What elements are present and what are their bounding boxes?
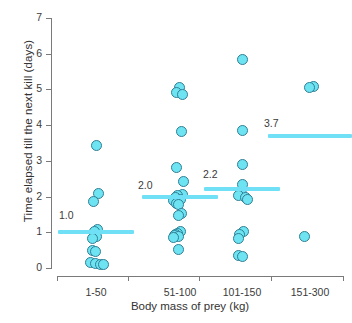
y-axis-tick-label: 3: [26, 155, 42, 166]
x-axis-tick: [199, 276, 200, 281]
y-axis-tick: [46, 197, 51, 198]
data-point: [176, 126, 187, 137]
y-axis-tick: [46, 268, 51, 269]
x-axis-tick: [271, 276, 272, 281]
y-axis-tick: [46, 89, 51, 90]
y-axis-tick-label: 4: [26, 119, 42, 130]
y-axis-line: [51, 18, 52, 269]
mean-line: [58, 230, 134, 234]
data-point: [87, 233, 98, 244]
y-axis-tick-label: 0: [26, 262, 42, 273]
mean-value-label: 1.0: [59, 209, 74, 221]
data-point: [88, 196, 99, 207]
y-axis-tick: [46, 125, 51, 126]
mean-value-label: 2.2: [203, 168, 218, 180]
data-point: [237, 159, 248, 170]
data-point: [242, 194, 253, 205]
y-axis-tick-label: 5: [26, 83, 42, 94]
data-point: [237, 54, 248, 65]
x-axis-tick: [128, 276, 129, 281]
data-point: [299, 231, 310, 242]
x-axis-tick: [343, 276, 344, 281]
data-point: [178, 176, 189, 187]
data-point: [237, 125, 248, 136]
y-axis-tick: [46, 18, 51, 19]
data-point: [173, 244, 184, 255]
data-point: [173, 210, 184, 221]
x-axis-tick-label: 101-150: [207, 286, 277, 298]
y-axis-tick: [46, 232, 51, 233]
x-axis-tick-label: 151-300: [275, 286, 345, 298]
y-axis-tick-label: 7: [26, 12, 42, 23]
y-axis-tick-label: 6: [26, 48, 42, 59]
x-axis-tick: [57, 276, 58, 281]
data-point: [98, 259, 109, 270]
data-point: [91, 140, 102, 151]
y-axis-tick: [46, 54, 51, 55]
mean-value-label: 3.7: [264, 117, 279, 129]
x-axis-tick-label: 51-100: [145, 286, 215, 298]
mean-line: [268, 134, 352, 138]
data-point: [90, 246, 101, 257]
y-axis-tick-label: 1: [26, 226, 42, 237]
x-axis-line: [57, 276, 343, 277]
data-point: [171, 162, 182, 173]
data-point: [304, 82, 315, 93]
x-axis-tick-label: 1-50: [61, 286, 131, 298]
mean-value-label: 2.0: [138, 179, 153, 191]
x-axis-title: Body mass of prey (kg): [40, 300, 340, 312]
mean-line: [142, 195, 218, 199]
data-point: [233, 233, 244, 244]
data-point: [177, 89, 188, 100]
y-axis-tick: [46, 161, 51, 162]
scatter-chart: Time elapsed till the next kill (days) B…: [0, 0, 352, 323]
y-axis-tick-label: 2: [26, 191, 42, 202]
data-point: [237, 251, 248, 262]
mean-line: [204, 187, 280, 191]
data-point: [168, 232, 179, 243]
